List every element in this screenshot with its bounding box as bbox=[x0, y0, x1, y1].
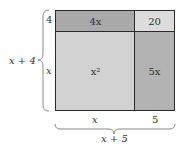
cell-top-left: 4x bbox=[55, 10, 135, 32]
cell-bottom-right-label: 5x bbox=[148, 66, 160, 77]
cell-bottom-left: x² bbox=[55, 31, 135, 111]
cell-top-right: 20 bbox=[134, 10, 175, 32]
height-brace-label: x + 4 bbox=[9, 56, 36, 66]
left-label-bottom: x bbox=[46, 66, 52, 76]
left-brace bbox=[38, 10, 49, 111]
cell-bottom-right: 5x bbox=[134, 31, 175, 111]
cell-bottom-left-label: x² bbox=[91, 66, 101, 77]
bottom-label-right: 5 bbox=[152, 115, 158, 125]
cell-top-right-label: 20 bbox=[148, 16, 161, 27]
left-label-top: 4 bbox=[46, 15, 52, 25]
bottom-label-left: x bbox=[92, 115, 98, 125]
cell-top-left-label: 4x bbox=[89, 16, 101, 27]
width-brace-label: x + 5 bbox=[101, 134, 128, 144]
